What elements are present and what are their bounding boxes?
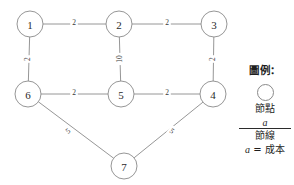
node-label-4: 4 <box>210 89 216 101</box>
edge-weight-1-6: 2 <box>23 57 32 61</box>
legend-node-caption: 節點 <box>236 102 294 115</box>
node-3[interactable]: 3 <box>201 11 227 37</box>
node-5[interactable]: 5 <box>108 81 134 107</box>
legend-edge-glyph: a <box>261 117 270 128</box>
node-4[interactable]: 4 <box>200 81 226 107</box>
legend-cost-value: 成本 <box>265 144 285 155</box>
network-diagram-page: 2221022255 1236547 圖例： 節點 a 節線 a = 成本 <box>0 0 294 185</box>
edge-6-7 <box>38 102 113 158</box>
edge-weight-6-5: 2 <box>72 88 76 97</box>
nodes-group: 1236547 <box>15 11 227 179</box>
legend-node-circle-icon <box>257 84 274 101</box>
node-2[interactable]: 2 <box>106 11 132 37</box>
edge-weight-5-4: 2 <box>165 88 169 97</box>
legend-edge-caption: 節線 <box>236 129 294 142</box>
edge-weight-1-2: 2 <box>72 18 76 27</box>
node-label-6: 6 <box>25 89 31 101</box>
legend-title: 圖例： <box>236 62 294 77</box>
edge-weight-2-3: 2 <box>165 18 169 27</box>
node-1[interactable]: 1 <box>17 11 43 37</box>
legend-cost-variable: a <box>245 144 250 155</box>
node-label-7: 7 <box>121 161 127 173</box>
node-label-2: 2 <box>116 19 122 31</box>
legend-edge-glyph-wrap: a <box>239 118 291 128</box>
legend-edge-rule <box>239 128 291 129</box>
edge-weight-2-5: 10 <box>115 55 124 63</box>
legend-edge-symbol: a <box>239 117 291 129</box>
legend: 圖例： 節點 a 節線 a = 成本 <box>236 62 294 156</box>
node-label-1: 1 <box>27 19 33 31</box>
node-label-3: 3 <box>211 19 217 31</box>
edge-weight-3-4: 2 <box>208 57 217 61</box>
node-7[interactable]: 7 <box>111 153 137 179</box>
legend-cost-equals: = <box>253 144 261 155</box>
legend-cost-note: a = 成本 <box>236 143 294 156</box>
node-6[interactable]: 6 <box>15 81 41 107</box>
node-label-5: 5 <box>118 89 124 101</box>
